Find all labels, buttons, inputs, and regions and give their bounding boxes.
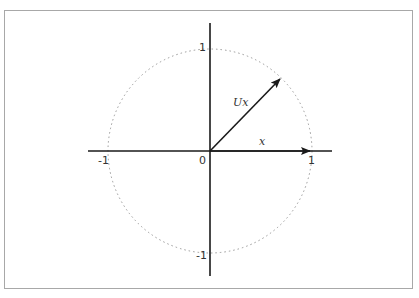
y-pos-tick-label: 1 (199, 41, 206, 54)
unit-circle-diagram: 0 1 -1 1 -1 Ux x (0, 0, 419, 298)
vector-ux-arrow (210, 79, 280, 151)
x-neg-tick-label: -1 (98, 154, 109, 167)
vector-x-label: x (259, 135, 266, 148)
y-neg-tick-label: -1 (196, 249, 207, 262)
origin-label: 0 (199, 154, 206, 167)
x-pos-tick-label: 1 (308, 154, 315, 167)
vector-ux-label: Ux (233, 96, 249, 109)
